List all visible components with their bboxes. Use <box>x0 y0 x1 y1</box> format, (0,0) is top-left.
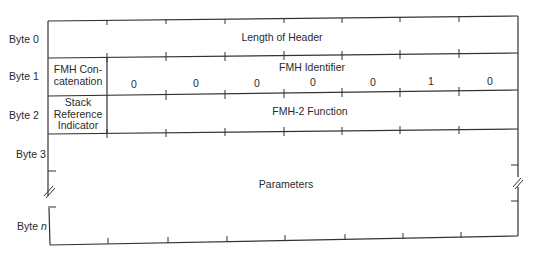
fmh-identifier-bit-5: 0 <box>370 76 376 88</box>
field-fmh-concatenation: FMH Con- catenation <box>54 63 102 87</box>
byte-0-label: Byte 0 <box>9 33 39 45</box>
fmh-identifier-bit-2: 0 <box>193 77 199 89</box>
field-fmh-identifier: FMH Identifier <box>279 61 345 73</box>
byte-1-label: Byte 1 <box>9 70 39 82</box>
bit-ticks <box>48 17 518 244</box>
field-length-of-header: Length of Header <box>241 31 322 43</box>
byte-2-label: Byte 2 <box>9 109 39 121</box>
fmh-concat-line2: catenation <box>54 75 102 87</box>
stack-ref-line3: Indicator <box>54 120 102 132</box>
fmh-identifier-bit-6: 1 <box>428 75 434 87</box>
field-parameters: Parameters <box>259 178 313 190</box>
row-divider-2-3 <box>48 129 518 134</box>
top-border <box>48 16 518 21</box>
byte-n-prefix: Byte <box>17 220 41 232</box>
fmh-identifier-bit-3: 0 <box>254 77 260 89</box>
byte-n-variable: n <box>41 220 47 232</box>
left-border-lower <box>49 208 50 245</box>
stack-ref-line1: Stack <box>54 97 102 109</box>
field-fmh2-function: FMH-2 Function <box>272 105 347 117</box>
fmh-identifier-bit-4: 0 <box>310 76 316 88</box>
byte-n-label: Byte n <box>17 220 47 232</box>
fmh-concat-line1: FMH Con- <box>54 63 102 75</box>
fmh-identifier-bit-7: 0 <box>487 75 493 87</box>
fmh-identifier-bit-1: 0 <box>131 78 137 90</box>
row-divider-1-2 <box>48 90 518 96</box>
bottom-border <box>50 236 518 245</box>
byte-3-label: Byte 3 <box>16 148 46 160</box>
field-stack-reference-indicator: Stack Reference Indicator <box>54 97 102 132</box>
row-divider-0-1 <box>48 53 518 58</box>
